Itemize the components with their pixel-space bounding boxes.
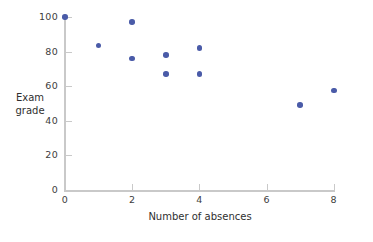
x-axis-tick — [132, 184, 133, 190]
scatter-plot-figure: 020406080100 02468 Exam grade Number of … — [0, 0, 373, 242]
data-point — [96, 43, 102, 49]
data-point — [129, 19, 135, 25]
x-axis-tick-label: 4 — [187, 194, 211, 205]
y-axis-title: Exam grade — [4, 92, 56, 117]
data-point — [163, 52, 169, 58]
data-point — [163, 71, 169, 77]
data-point — [62, 14, 68, 20]
y-axis-tick — [66, 190, 72, 191]
y-axis-title-line-1: Exam — [4, 92, 56, 105]
x-axis-tick — [65, 184, 66, 190]
y-axis-line — [64, 15, 66, 192]
y-axis-tick — [66, 121, 72, 122]
data-point — [129, 56, 135, 62]
x-axis-tick-label: 2 — [120, 194, 144, 205]
x-axis-tick-label: 8 — [322, 194, 346, 205]
x-axis-tick — [199, 184, 200, 190]
y-axis-tick — [66, 52, 72, 53]
x-axis-title: Number of absences — [64, 211, 336, 222]
data-point — [197, 45, 203, 51]
x-axis-line — [64, 190, 335, 192]
x-axis-tick — [334, 184, 335, 190]
y-axis-tick-label-slot: 100 — [20, 11, 58, 23]
x-axis-tick — [267, 184, 268, 190]
data-point — [297, 102, 303, 108]
x-axis-tick-label: 0 — [53, 194, 77, 205]
y-axis-tick-label-slot: 20 — [20, 149, 58, 161]
y-axis-tick-label: 100 — [20, 11, 58, 22]
y-axis-tick — [66, 155, 72, 156]
y-axis-tick-label-slot: 80 — [20, 46, 58, 58]
y-axis-tick — [66, 86, 72, 87]
x-axis-tick-label: 6 — [255, 194, 279, 205]
y-axis-tick-label: 80 — [20, 46, 58, 57]
y-axis-title-line-2: grade — [4, 105, 56, 118]
y-axis-tick-label-slot: 60 — [20, 80, 58, 92]
y-axis-tick-label: 60 — [20, 80, 58, 91]
y-axis-tick-label: 20 — [20, 149, 58, 160]
data-point — [197, 71, 203, 77]
data-point — [331, 88, 337, 94]
